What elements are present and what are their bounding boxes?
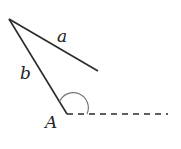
angle-arc <box>60 93 89 114</box>
label-vertex-A: A <box>43 112 57 132</box>
angle-diagram: a b A <box>0 0 181 149</box>
label-a: a <box>57 26 67 46</box>
label-b: b <box>20 63 31 83</box>
